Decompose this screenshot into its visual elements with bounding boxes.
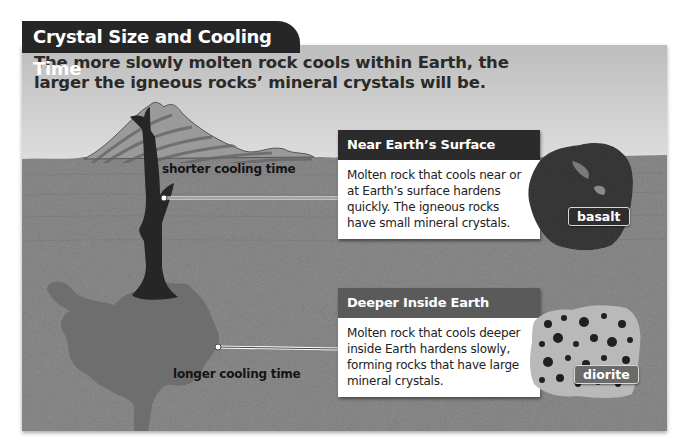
near-surface-heading: Near Earth’s Surface xyxy=(338,130,540,160)
deeper-inside-heading: Deeper Inside Earth xyxy=(338,288,540,318)
diorite-label: diorite xyxy=(574,365,639,384)
basalt-label: basalt xyxy=(568,207,630,226)
basalt-rock-image xyxy=(522,141,642,253)
near-surface-description: Molten rock that cools near or at Earth’… xyxy=(338,160,540,239)
near-surface-card: Near Earth’s Surface Molten rock that co… xyxy=(338,130,540,239)
deeper-inside-description: Molten rock that cools deeper inside Ear… xyxy=(338,318,540,397)
figure-subtitle: The more slowly molten rock cools within… xyxy=(34,53,514,93)
shorter-cooling-time-label: shorter cooling time xyxy=(162,162,295,176)
diagram-panel: The more slowly molten rock cools within… xyxy=(22,45,667,431)
longer-cooling-time-label: longer cooling time xyxy=(173,367,301,381)
diorite-rock-image xyxy=(526,300,646,402)
deeper-inside-card: Deeper Inside Earth Molten rock that coo… xyxy=(338,288,540,397)
figure-title: Crystal Size and Cooling Time xyxy=(22,21,300,53)
